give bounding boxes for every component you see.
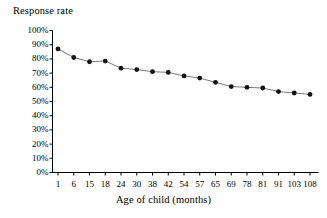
data-point-marker [292,91,297,96]
x-tick-label: 81 [258,180,267,189]
y-tick-label: 20% [15,140,49,149]
data-point-marker [71,55,76,60]
x-tick-label: 57 [195,180,204,189]
data-series-line [58,49,310,94]
x-tick-label: 103 [288,180,302,189]
data-point-marker [229,84,234,89]
data-point-marker [276,89,281,94]
data-series-markers [56,47,313,97]
y-tick-label: 50% [15,97,49,106]
x-tick-label: 42 [164,180,173,189]
response-rate-line-chart: Response rate 100%90%80%70%60%50%40%30%2… [0,0,327,218]
x-tick-label: 54 [180,180,189,189]
x-tick-label: 65 [211,180,220,189]
x-tick-label: 69 [227,180,236,189]
x-tick-label: 108 [303,180,317,189]
y-tick-label: 30% [15,125,49,134]
data-point-marker [166,70,171,75]
x-tick-label: 6 [72,180,77,189]
y-tick-label: 60% [15,83,49,92]
data-point-marker [308,92,313,97]
x-tick-label: 1 [56,180,61,189]
x-tick-label: 38 [148,180,157,189]
data-point-marker [182,74,187,79]
data-point-marker [245,85,250,90]
x-tick-label: 30 [132,180,141,189]
x-tick-label: 15 [85,180,94,189]
data-point-marker [197,76,202,81]
data-point-marker [134,67,139,72]
x-tick-label: 18 [101,180,110,189]
data-point-marker [103,59,108,64]
y-tick-label: 90% [15,40,49,49]
data-point-marker [260,86,265,91]
data-point-marker [213,80,218,85]
data-point-marker [150,69,155,74]
data-point-marker [56,47,61,52]
x-axis-title: Age of child (months) [0,194,327,206]
y-tick-label: 80% [15,54,49,63]
y-tick-label: 100% [15,26,49,35]
x-tick-label: 91 [274,180,283,189]
data-point-marker [119,66,124,71]
y-tick-label: 0% [15,168,49,177]
y-tick-label: 10% [15,154,49,163]
data-point-marker [87,59,92,64]
x-tick-label: 24 [117,180,126,189]
y-tick-label: 40% [15,111,49,120]
y-tick-label: 70% [15,69,49,78]
x-tick-label: 78 [243,180,252,189]
